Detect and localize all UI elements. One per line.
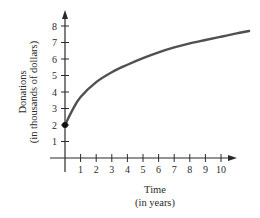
y-tick-label: 2 bbox=[52, 120, 57, 131]
start-point-marker bbox=[62, 122, 68, 128]
y-tick-label: 7 bbox=[52, 37, 57, 48]
x-axis-arrow-icon bbox=[228, 155, 237, 161]
y-tick-label: 4 bbox=[52, 87, 57, 98]
x-tick-label: 8 bbox=[187, 164, 192, 175]
y-tick-label: 6 bbox=[52, 54, 57, 65]
axis-labels: Donations (in thousands of dollars) Time… bbox=[17, 40, 175, 209]
y-axis-subtitle: (in thousands of dollars) bbox=[28, 40, 40, 143]
data-curve bbox=[62, 31, 249, 128]
y-tick-label: 1 bbox=[52, 136, 57, 147]
y-tick-label: 5 bbox=[52, 70, 57, 81]
x-tick-label: 5 bbox=[141, 164, 146, 175]
y-tick-label: 3 bbox=[52, 103, 57, 114]
y-axis-title: Donations bbox=[17, 70, 28, 113]
x-tick-label: 9 bbox=[203, 164, 208, 175]
y-axis-arrow-icon bbox=[62, 10, 68, 19]
x-tick-label: 4 bbox=[125, 164, 130, 175]
x-axis-subtitle: (in years) bbox=[135, 197, 175, 209]
donations-chart: 1234567812345678910 Donations (in thousa… bbox=[0, 0, 260, 218]
donations-line bbox=[65, 31, 249, 125]
y-tick-label: 8 bbox=[52, 21, 57, 32]
x-tick-label: 6 bbox=[156, 164, 161, 175]
x-tick-label: 1 bbox=[78, 164, 83, 175]
axes: 1234567812345678910 bbox=[50, 10, 237, 175]
x-axis-title: Time bbox=[144, 184, 166, 195]
x-tick-label: 10 bbox=[216, 164, 226, 175]
x-tick-label: 7 bbox=[172, 164, 177, 175]
x-tick-label: 3 bbox=[109, 164, 114, 175]
x-tick-label: 2 bbox=[94, 164, 99, 175]
